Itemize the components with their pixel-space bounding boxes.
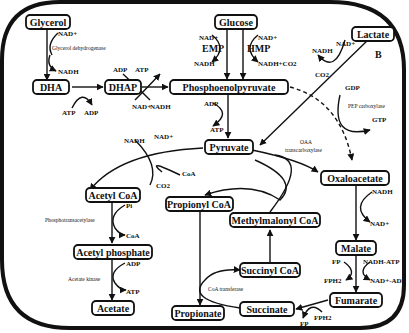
svg-text:DHA: DHA	[40, 82, 63, 93]
label-nadh-atp: NADH-ATP	[363, 258, 400, 266]
oaa-nadh-arc	[360, 192, 372, 222]
label-pyr-co2: CO2	[156, 182, 171, 190]
label-glycerol-nadh: NADH	[58, 68, 79, 76]
node-acetyl-phosphate: Acetyl phosphate	[74, 245, 152, 259]
node-dhap: DHAP	[105, 80, 141, 94]
fp-arc	[344, 262, 352, 280]
label-emp: EMP	[202, 43, 224, 54]
node-succinyl-coa: Succinyl CoA	[240, 263, 300, 277]
label-glycerol-dehydrogenase: Glycerol dehydrogenase	[52, 45, 106, 51]
cofactor-arc-glycerol	[50, 33, 58, 55]
label-dhap-nad: NAD+	[132, 103, 151, 111]
pyr-coa-arc	[156, 166, 180, 175]
label-gtp: GTP	[372, 116, 387, 124]
label-ack-atp: ATP	[126, 288, 140, 296]
label-pyr-nad: NAD+	[154, 133, 173, 141]
label-lactate-nad: NAD+	[336, 40, 355, 48]
ack-arc	[113, 263, 126, 290]
panel-label: B	[375, 49, 382, 60]
svg-text:Propionate: Propionate	[174, 308, 222, 319]
svg-text:Fumarate: Fumarate	[335, 295, 378, 306]
label-dhap-nadh: NADH	[150, 103, 171, 111]
label-oaa-nad: NAD+	[370, 220, 389, 228]
node-methylmalonyl-coa: Methylmalonyl CoA	[230, 213, 320, 227]
label-lactate-nadh: NADH	[312, 47, 333, 55]
label-fph2: FPH2	[324, 277, 342, 285]
label-pi: Pi	[126, 202, 132, 210]
node-acetate: Acetate	[92, 301, 134, 315]
svg-text:Malate: Malate	[341, 243, 372, 254]
svg-text:Oxaloacetate: Oxaloacetate	[327, 173, 383, 184]
label-dha-atp: ATP	[62, 109, 76, 117]
label-hmp-nad: NAD+	[258, 34, 277, 42]
label-pep-adp: ADP	[204, 100, 219, 108]
pep-carboxylase-arc	[338, 95, 370, 132]
svg-text:Succinate: Succinate	[246, 304, 288, 315]
cofactor-arc-dha	[72, 97, 92, 108]
label-hmp-nadh: NADH+CO2	[258, 60, 297, 68]
label-pyr-coa: CoA	[182, 170, 196, 178]
label-nad-adp: NAD+-ADP	[370, 277, 407, 285]
node-glucose: Glucose	[215, 15, 257, 29]
label-pyr-nadh: NADH	[124, 137, 145, 145]
svg-text:Glycerol: Glycerol	[30, 17, 67, 28]
svg-text:DHAP: DHAP	[109, 82, 137, 93]
label-phosphotransacetylase: Phosphotransacetylase	[45, 217, 95, 223]
svg-text:Acetyl phosphate: Acetyl phosphate	[76, 247, 150, 258]
svg-text:Propionyl CoA: Propionyl CoA	[167, 199, 232, 210]
svg-text:Phosphoenolpyruvate: Phosphoenolpyruvate	[183, 82, 276, 93]
node-fumarate: Fumarate	[330, 293, 382, 307]
label-oaa-nadh: NADH	[372, 188, 393, 196]
label-pep-carboxylase: PEP carboxylase	[348, 103, 385, 109]
label-glycerol-nad: NAD+	[58, 30, 77, 38]
node-lactate: Lactate	[352, 27, 394, 41]
node-malate: Malate	[336, 241, 376, 255]
label-co2-top: CO2	[315, 71, 330, 79]
label-fum-fph2: FPH2	[314, 314, 332, 322]
label-hmp: HMP	[247, 43, 270, 54]
node-dha: DHA	[33, 80, 69, 94]
node-acetyl-coa: Acetyl CoA	[86, 188, 140, 202]
label-dhap-atp: ATP	[135, 66, 149, 74]
pta-arc	[113, 205, 125, 235]
svg-text:Acetate: Acetate	[97, 303, 130, 314]
label-emp-nad: NAD+	[199, 34, 218, 42]
node-oxaloacetate: Oxaloacetate	[321, 171, 389, 185]
node-phosphoenolpyruvate: Phosphoenolpyruvate	[170, 80, 288, 94]
label-coa-out: CoA	[126, 232, 140, 240]
label-oaa-transcarboxylase: transcarboxylase	[285, 147, 323, 153]
node-succinate: Succinate	[240, 302, 294, 316]
arrow-pyruvate-oaa	[252, 150, 318, 172]
svg-text:Lactate: Lactate	[357, 29, 390, 40]
label-dhap-adp: ADP	[113, 66, 128, 74]
label-fum-fp: FP	[300, 320, 309, 328]
label-gdp: GDP	[345, 84, 361, 92]
label-dha-adp: ADP	[84, 109, 99, 117]
cofactor-arc-glycerol-out	[49, 55, 56, 71]
label-coa-transferase: CoA transferase	[208, 286, 244, 292]
svg-text:Acetyl CoA: Acetyl CoA	[88, 190, 138, 201]
label-oaa-1: OAA	[300, 139, 312, 145]
label-acetate-kinase: Acetate kinase	[68, 276, 101, 282]
label-fp: FP	[332, 258, 341, 266]
arrow-to-propionylcoa	[205, 160, 286, 200]
metabolic-pathway-diagram: Glycerol DHA DHAP Glucose Phosphoenolpyr…	[0, 0, 409, 333]
svg-text:Methylmalonyl CoA: Methylmalonyl CoA	[232, 215, 320, 226]
node-propionyl-coa: Propionyl CoA	[166, 197, 233, 211]
pyr-nad-arc	[135, 140, 153, 185]
methylmalonyl-loop	[270, 155, 291, 212]
svg-text:Glucose: Glucose	[219, 17, 253, 28]
label-emp-nadh: NADH	[194, 60, 215, 68]
label-pep-atp: ATP	[210, 126, 224, 134]
node-propionate: Propionate	[172, 306, 224, 320]
svg-text:Pyruvate: Pyruvate	[210, 142, 249, 153]
svg-text:Succinyl CoA: Succinyl CoA	[241, 265, 300, 276]
node-glycerol: Glycerol	[26, 15, 70, 29]
node-pyruvate: Pyruvate	[205, 140, 253, 154]
label-ack-adp: ADP	[126, 260, 141, 268]
